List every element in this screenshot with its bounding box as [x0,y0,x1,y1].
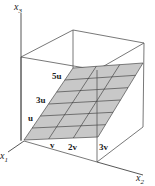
label-u: u [28,113,33,123]
box-edge-top-back [73,30,144,43]
label-5u: 5u [52,71,62,81]
box-edge-top-left [21,30,73,57]
x2-label: x2 [135,172,144,186]
label-v: v [50,140,55,150]
x1-label: x1 [0,150,8,164]
box-edge-bottom-front [24,141,97,162]
label-2v: 2v [68,142,78,152]
box-edge-back-right-vertical [143,43,144,127]
x3-label: x3 [13,1,22,15]
label-3v: 3v [99,142,109,152]
label-3u: 3u [36,95,46,105]
plane-diagram: x3 x1 x2 5u 3u u v 2v 3v [0,0,155,186]
x1-axis [8,141,24,152]
